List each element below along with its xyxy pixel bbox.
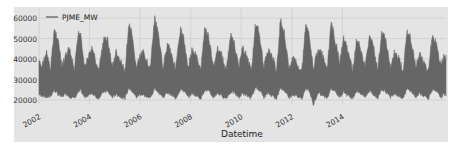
- x-tick-label: 2008: [173, 112, 194, 129]
- x-tick-label: 2014: [325, 112, 346, 129]
- x-axis-label: Datetime: [221, 129, 263, 139]
- series-pjme-mw: [39, 16, 446, 106]
- y-tick-label: 60000: [13, 14, 37, 23]
- y-tick-label: 20000: [13, 96, 37, 105]
- x-axis-ticks: 2002200420062008201020122014: [21, 112, 346, 129]
- line-chart: 2000030000400005000060000 20022004200620…: [0, 0, 462, 150]
- y-tick-label: 30000: [13, 76, 37, 85]
- y-axis-ticks: 2000030000400005000060000: [13, 14, 37, 105]
- y-tick-label: 50000: [13, 35, 37, 44]
- x-tick-label: 2012: [274, 112, 295, 129]
- x-tick-label: 2004: [72, 112, 93, 129]
- legend: PJME_MW: [46, 13, 98, 22]
- x-tick-label: 2010: [223, 112, 244, 129]
- series-area: [39, 16, 446, 106]
- y-tick-label: 40000: [13, 55, 37, 64]
- x-tick-label: 2002: [21, 112, 42, 129]
- legend-label: PJME_MW: [62, 13, 98, 22]
- x-tick-label: 2006: [122, 112, 143, 129]
